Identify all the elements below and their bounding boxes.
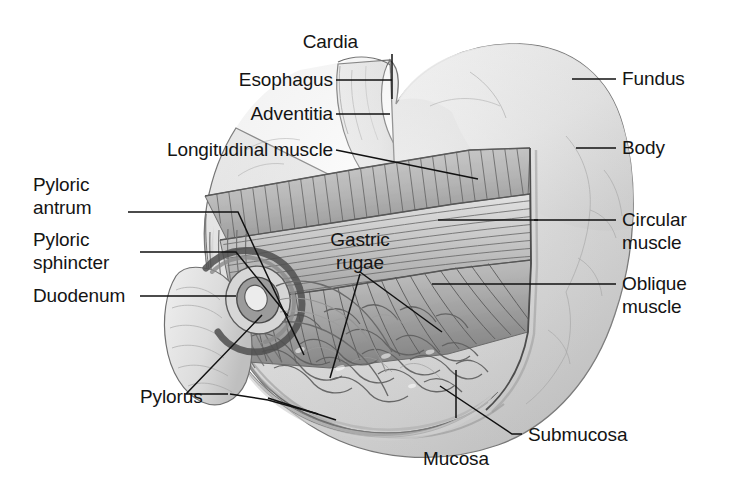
label-oblique-muscle-line2: muscle bbox=[622, 295, 744, 318]
label-gastric-rugae-line2: rugae bbox=[296, 251, 424, 274]
stomach-anatomy-figure: Cardia Esophagus Adventitia Longitudinal… bbox=[0, 0, 744, 483]
label-pylorus: Pylorus bbox=[140, 385, 270, 408]
label-esophagus: Esophagus bbox=[113, 68, 333, 91]
label-oblique-muscle-line1: Oblique bbox=[622, 272, 744, 295]
label-gastric-rugae-line1: Gastric bbox=[296, 228, 424, 251]
label-pyloric-antrum-line2: antrum bbox=[33, 196, 153, 219]
label-body: Body bbox=[622, 136, 742, 159]
label-mucosa: Mucosa bbox=[394, 447, 518, 470]
label-pyloric-antrum-line1: Pyloric bbox=[33, 173, 153, 196]
label-submucosa: Submucosa bbox=[528, 423, 708, 446]
label-circular-muscle-line2: muscle bbox=[622, 231, 744, 254]
label-pyloric-sphincter-line1: Pyloric bbox=[33, 228, 163, 251]
label-cardia: Cardia bbox=[133, 30, 358, 53]
label-pyloric-sphincter-line2: sphincter bbox=[33, 251, 163, 274]
label-adventitia: Adventitia bbox=[113, 102, 333, 125]
label-fundus: Fundus bbox=[622, 67, 742, 90]
label-duodenum: Duodenum bbox=[33, 284, 173, 307]
label-circular-muscle-line1: Circular bbox=[622, 208, 744, 231]
label-longitudinal-muscle: Longitudinal muscle bbox=[93, 138, 333, 161]
